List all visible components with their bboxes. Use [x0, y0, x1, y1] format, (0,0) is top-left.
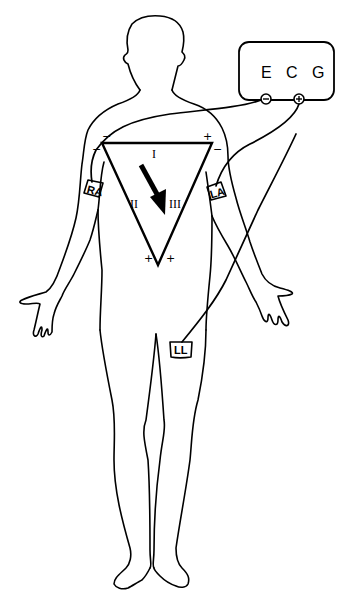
polarity-mark: + — [144, 252, 153, 265]
electrode-RA: RA — [84, 180, 104, 198]
head-outline — [124, 16, 185, 90]
axis-arrow-icon — [141, 165, 166, 215]
lead-wires — [91, 100, 299, 342]
wire-negative-to-RA — [91, 100, 261, 182]
lead-II-label: II — [130, 197, 138, 211]
human-body-outline — [20, 16, 292, 589]
lead-I-label: I — [152, 147, 156, 161]
left-leg-outer — [100, 330, 150, 589]
electrode-RA-label: RA — [86, 183, 104, 199]
polarity-mark: − — [213, 143, 222, 156]
right-leg-inner — [153, 334, 164, 568]
einthoven-triangle: I II III − − + − + + — [92, 130, 222, 265]
ecg-device: E C G — [239, 42, 334, 104]
ecg-diagram: I II III − − + − + + RA LA LL E C G — [0, 0, 344, 598]
right-side-outline — [172, 90, 292, 326]
polarity-mark: + — [203, 130, 212, 143]
right-leg-outer — [154, 330, 206, 587]
electrode-LL-label: LL — [174, 344, 188, 356]
electrode-LL: LL — [170, 342, 192, 358]
polarity-mark: + — [166, 252, 175, 265]
lead-III-label: III — [169, 197, 181, 211]
wire-positive-to-LA — [216, 104, 299, 186]
torso-left — [98, 210, 102, 330]
ecg-device-label: E C G — [261, 64, 330, 81]
wire-to-LL — [182, 134, 296, 342]
torso-right — [206, 216, 212, 330]
